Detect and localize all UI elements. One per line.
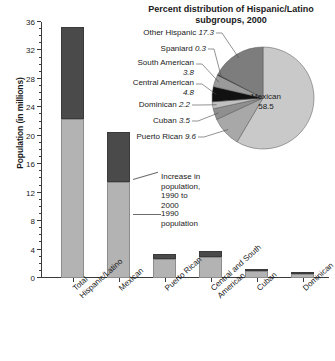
x-tick bbox=[257, 278, 258, 282]
annotation-1990: 1990 population bbox=[161, 209, 200, 228]
y-tick-minor bbox=[39, 185, 42, 186]
y-tick-minor bbox=[39, 234, 42, 235]
y-tick-minor bbox=[39, 42, 42, 43]
y-tick-minor bbox=[39, 241, 42, 242]
pie-label-name: Other Hispanic bbox=[143, 28, 196, 37]
y-tick-major bbox=[37, 192, 41, 193]
annotation-increase: Increase in population, 1990 to 2000 bbox=[161, 172, 200, 210]
pie-label-value: 2.2 bbox=[179, 100, 190, 109]
x-tick bbox=[165, 278, 166, 282]
pie-label-name: Puerto Rican bbox=[136, 132, 182, 141]
y-tick-major bbox=[37, 106, 41, 107]
bar-segment-increase bbox=[153, 254, 176, 259]
y-tick-minor bbox=[39, 35, 42, 36]
y-tick-minor bbox=[39, 71, 42, 72]
pie-leader-line bbox=[216, 33, 239, 58]
pie-label-name: South American bbox=[138, 58, 194, 67]
bar-segment-increase bbox=[291, 272, 314, 274]
y-tick-minor bbox=[39, 92, 42, 93]
y-tick-label: 28 bbox=[26, 74, 35, 83]
y-tick-minor bbox=[39, 149, 42, 150]
y-tick-minor bbox=[39, 270, 42, 271]
y-tick-minor bbox=[39, 156, 42, 157]
bar-segment-1990 bbox=[61, 119, 84, 278]
x-tick bbox=[211, 278, 212, 282]
y-tick-label: 12 bbox=[26, 188, 35, 197]
y-tick-label: 32 bbox=[26, 46, 35, 55]
y-tick-major bbox=[37, 49, 41, 50]
pie-label-other-hispanic: Other Hispanic 17.3 bbox=[143, 28, 214, 38]
pie-leader-line bbox=[198, 129, 228, 137]
y-tick-label: 36 bbox=[26, 18, 35, 27]
annotation-increase-line2: 1990 to 2000 bbox=[161, 191, 200, 210]
y-tick-minor bbox=[39, 85, 42, 86]
pie-label-name: Cuban bbox=[153, 116, 177, 125]
x-tick bbox=[73, 278, 74, 282]
y-tick-minor bbox=[39, 177, 42, 178]
annotation-increase-line1: Increase in population, bbox=[161, 172, 200, 191]
pie-label-name: Central American bbox=[133, 78, 194, 87]
x-tick bbox=[303, 278, 304, 282]
y-tick-label: 16 bbox=[26, 160, 35, 169]
bar-3[interactable] bbox=[199, 251, 222, 278]
bar-segment-1990 bbox=[153, 259, 176, 278]
y-tick-minor bbox=[39, 213, 42, 214]
bar-segment-increase bbox=[61, 27, 84, 119]
pie-label-value: 9.6 bbox=[185, 132, 196, 141]
y-tick-minor bbox=[39, 64, 42, 65]
pie-label-central-american: Central American4.8 bbox=[133, 78, 194, 97]
y-tick-major bbox=[37, 220, 41, 221]
leader-line-1990 bbox=[133, 214, 161, 215]
pie-label-cuban: Cuban 3.5 bbox=[153, 116, 190, 126]
y-tick-label: 8 bbox=[31, 217, 35, 226]
y-tick-major bbox=[37, 78, 41, 79]
y-axis-label: Population (in millions) bbox=[15, 63, 25, 183]
y-tick-major bbox=[37, 249, 41, 250]
bar-segment-increase bbox=[199, 251, 222, 257]
y-tick-minor bbox=[39, 256, 42, 257]
pie-center-label-name: Mexican bbox=[236, 92, 296, 102]
y-tick-minor bbox=[39, 128, 42, 129]
pie-label-value: 17.3 bbox=[198, 28, 214, 37]
y-tick-minor bbox=[39, 99, 42, 100]
hispanic-subgroups-pie-chart: Percent distribution of Hispanic/Latino … bbox=[118, 0, 329, 165]
y-tick-major bbox=[37, 163, 41, 164]
y-tick-minor bbox=[39, 206, 42, 207]
y-tick-major bbox=[37, 135, 41, 136]
y-tick-minor bbox=[39, 263, 42, 264]
y-tick-major bbox=[37, 21, 41, 22]
y-tick-label: 20 bbox=[26, 131, 35, 140]
pie-label-value: 3.8 bbox=[183, 68, 194, 77]
y-tick-label: 24 bbox=[26, 103, 35, 112]
y-tick-minor bbox=[39, 113, 42, 114]
y-tick-minor bbox=[39, 28, 42, 29]
pie-label-name: Spaniard bbox=[161, 44, 193, 53]
y-tick-minor bbox=[39, 121, 42, 122]
y-tick-minor bbox=[39, 199, 42, 200]
pie-label-name: Dominican bbox=[139, 100, 177, 109]
y-tick-minor bbox=[39, 170, 42, 171]
bar-2[interactable] bbox=[153, 254, 176, 278]
y-tick-minor bbox=[39, 227, 42, 228]
y-tick-major bbox=[37, 277, 41, 278]
y-tick-minor bbox=[39, 142, 42, 143]
pie-center-label-value: 58.5 bbox=[236, 102, 296, 112]
pie-label-dominican: Dominican 2.2 bbox=[139, 100, 190, 110]
pie-label-south-american: South American3.8 bbox=[138, 58, 194, 77]
pie-label-puerto-rican: Puerto Rican 9.6 bbox=[136, 132, 196, 142]
bar-0[interactable] bbox=[61, 27, 84, 278]
x-tick bbox=[119, 278, 120, 282]
pie-label-spaniard: Spaniard 0.3 bbox=[161, 44, 206, 54]
pie-center-label: Mexican 58.5 bbox=[236, 92, 296, 112]
y-tick-minor bbox=[39, 57, 42, 58]
y-tick-label: 4 bbox=[31, 245, 35, 254]
y-tick-label: 0 bbox=[31, 274, 35, 283]
pie-label-value: 3.5 bbox=[179, 116, 190, 125]
y-axis-line bbox=[41, 22, 42, 278]
pie-label-value: 0.3 bbox=[195, 44, 206, 53]
pie-label-value: 4.8 bbox=[183, 88, 194, 97]
